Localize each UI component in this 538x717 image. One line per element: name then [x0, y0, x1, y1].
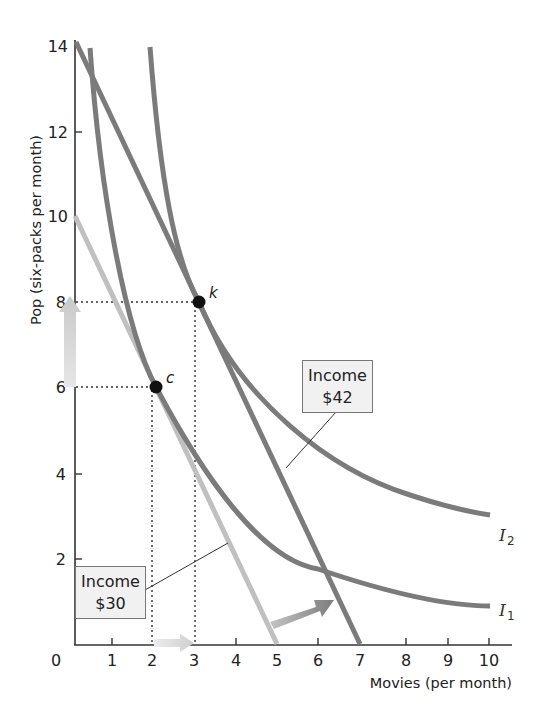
indifference-curve-i1 [90, 48, 490, 606]
income-42-line2: $42 [303, 387, 372, 409]
y-tick-10: 10 [48, 207, 68, 226]
x-tick-6: 6 [313, 651, 323, 670]
x-axis-title: Movies (per month) [370, 675, 512, 691]
point-k [193, 296, 206, 309]
income-42-callout: Income $42 [302, 360, 373, 413]
y-ticks [75, 132, 82, 559]
callout-line-30 [145, 543, 228, 590]
x-tick-5: 5 [272, 651, 282, 670]
y-tick-14: 14 [48, 37, 68, 56]
i2-label-subscript: 2 [507, 534, 515, 548]
income-30-line2: $30 [76, 593, 145, 615]
y-tick-4: 4 [56, 465, 66, 484]
x-tick-7: 7 [355, 651, 365, 670]
i2-label: I [498, 525, 506, 545]
x-tick-10: 10 [479, 651, 499, 670]
x-tick-9: 9 [443, 651, 453, 670]
x-tick-4: 4 [231, 651, 241, 670]
callout-line-42 [286, 412, 336, 468]
i1-label-subscript: 1 [507, 609, 515, 623]
indifference-curve-i2 [150, 47, 490, 515]
x-tick-8: 8 [401, 651, 411, 670]
y-tick-12: 12 [48, 123, 68, 142]
x-tick-2: 2 [147, 651, 157, 670]
y-tick-2: 2 [56, 550, 66, 569]
income-42-line1: Income [303, 365, 372, 387]
x-tick-3: 3 [189, 651, 199, 670]
pop-increase-arrow [59, 296, 81, 387]
origin-label: 0 [51, 651, 61, 670]
i1-label: I [498, 600, 506, 620]
point-c-label: c [166, 369, 175, 387]
income-30-line1: Income [76, 571, 145, 593]
point-c [150, 381, 163, 394]
income-30-callout: Income $30 [75, 566, 146, 619]
movies-increase-arrow [154, 634, 194, 652]
y-axis-title: Pop (six-packs per month) [28, 135, 44, 325]
point-k-label: k [209, 284, 219, 302]
budget-shift-arrow [270, 600, 334, 629]
x-tick-1: 1 [107, 651, 117, 670]
